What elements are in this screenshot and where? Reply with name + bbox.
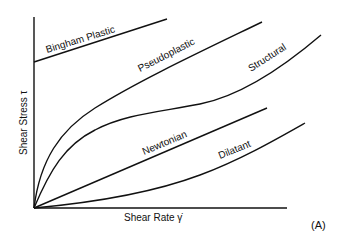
rheology-diagram: Bingham Plastic Pseudoplastic Structural…	[0, 0, 349, 240]
panel-label: (A)	[311, 219, 326, 231]
label-structural: Structural	[246, 41, 288, 74]
x-axis-label: Shear Rate γ̇	[124, 212, 183, 223]
label-dilatant: Dilatant	[217, 138, 253, 161]
y-axis-label: Shear Stress τ	[18, 90, 29, 155]
curve-pseudoplastic	[34, 22, 262, 208]
curve-newtonian	[34, 108, 267, 208]
